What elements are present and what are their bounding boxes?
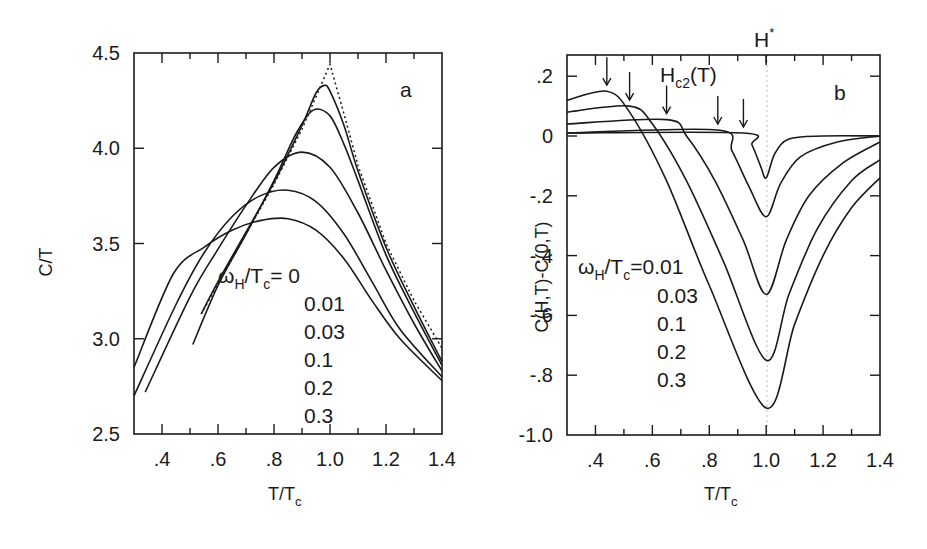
x-tick-label: 1.2 <box>809 449 837 471</box>
panel-b-letter: b <box>834 81 846 104</box>
y-tick-label: 4.5 <box>92 42 120 64</box>
panel-a-ticks: .4.6.81.01.21.42.53.03.54.04.5 <box>92 42 456 470</box>
y-tick-label: -.2 <box>530 185 553 207</box>
x-tick-label: 1.0 <box>752 449 780 471</box>
x-tick-label: 1.4 <box>866 449 894 471</box>
panel-b-curves <box>567 91 880 409</box>
panel-a-legend-title: ωH/Tc= 0 <box>218 264 300 292</box>
series-0.3 <box>134 218 442 381</box>
x-tick-label: .6 <box>644 449 661 471</box>
panel-b-y-axis-title: C(H,T)-C(0,T) <box>532 222 552 333</box>
y-tick-label: 3.0 <box>92 328 120 350</box>
panel-a-chart: .4.6.81.01.21.42.53.03.54.04.5 C/T T/Tc … <box>36 42 456 509</box>
hstar-label: H* <box>754 25 774 51</box>
series-0.2 <box>134 190 442 396</box>
panel-a-x-axis-title: T/Tc <box>268 484 302 509</box>
y-tick-label: 2.5 <box>92 423 120 445</box>
y-tick-label: 0 <box>542 125 553 147</box>
panel-a-legend-entry: 0.03 <box>304 320 345 343</box>
series-0.3 <box>567 91 880 409</box>
y-tick-label: .2 <box>536 65 553 87</box>
panel-a-curves <box>134 64 442 396</box>
panel-a-frame <box>134 53 442 434</box>
panel-a-legend: ωH/Tc= 0 0.01 0.03 0.1 0.2 0.3 <box>218 264 345 427</box>
figure: .4.6.81.01.21.42.53.03.54.04.5 C/T T/Tc … <box>0 0 927 549</box>
x-tick-label: 1.4 <box>428 448 456 470</box>
hc2-label: Hc2(T) <box>660 63 717 91</box>
y-tick-label: -.8 <box>530 364 553 386</box>
x-tick-label: .8 <box>266 448 283 470</box>
panel-b-legend-entry: 0.2 <box>657 340 686 363</box>
panel-b-frame <box>567 55 880 435</box>
x-tick-label: .8 <box>701 449 718 471</box>
panel-b-legend-title: ωH/Tc=0.01 <box>578 255 683 283</box>
panel-a-legend-entry: 0.3 <box>304 404 333 427</box>
panel-b-ticks: .4.6.81.01.21.4.20-.2-.4-.6-.8-1.0 <box>519 55 894 471</box>
panel-a-legend-entry: 0.1 <box>304 348 333 371</box>
y-tick-label: 3.5 <box>92 233 120 255</box>
x-tick-label: .4 <box>154 448 171 470</box>
panel-b-legend-entry: 0.03 <box>657 284 698 307</box>
y-tick-label: 4.0 <box>92 137 120 159</box>
y-tick-label: -1.0 <box>519 424 553 446</box>
panel-a-legend-entry: 0.2 <box>304 376 333 399</box>
x-tick-label: 1.2 <box>372 448 400 470</box>
panel-b-legend: ωH/Tc=0.01 0.03 0.1 0.2 0.3 <box>578 255 698 391</box>
panel-b-legend-entry: 0.1 <box>657 312 686 335</box>
panel-a-letter: a <box>400 78 412 101</box>
panel-a-legend-entry: 0.01 <box>304 292 345 315</box>
panel-b-legend-entry: 0.3 <box>657 368 686 391</box>
panel-b-chart: .4.6.81.01.21.4.20-.2-.4-.6-.8-1.0 C(H,T… <box>519 25 894 509</box>
x-tick-label: 1.0 <box>316 448 344 470</box>
x-tick-label: .4 <box>587 449 604 471</box>
panel-b-x-axis-title: T/Tc <box>704 484 738 509</box>
panel-a-y-axis-title: C/T <box>36 248 56 277</box>
x-tick-label: .6 <box>210 448 227 470</box>
